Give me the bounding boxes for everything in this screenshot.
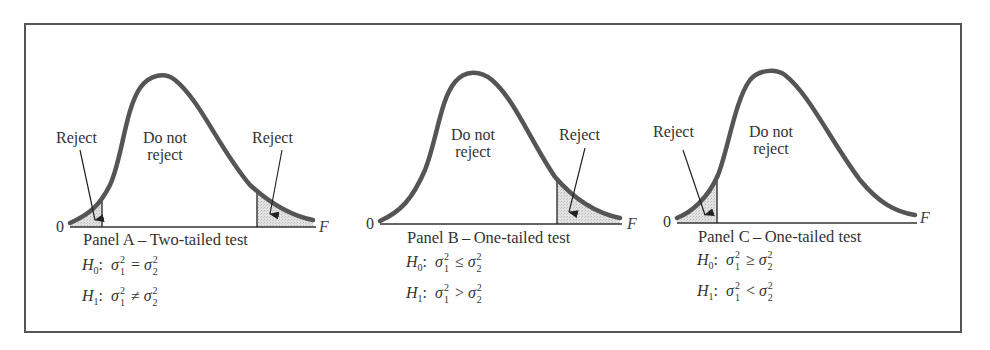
h0-symbol: H <box>697 251 709 268</box>
panel-b-f-label: F <box>627 215 637 233</box>
relation: = <box>131 256 140 273</box>
sup: 2 <box>444 282 449 293</box>
sup: 2 <box>444 251 449 262</box>
sigma-1: σ <box>726 251 734 268</box>
h1-subscript: 1 <box>418 293 423 304</box>
panel-a-h0: H0: σ21 = σ22 <box>82 256 160 276</box>
sigma-1: σ <box>435 284 443 301</box>
h0-symbol: H <box>82 256 94 273</box>
panel-a-do-not-reject-label: Do not reject <box>143 129 187 163</box>
panel-a-f-label: F <box>319 218 329 236</box>
panel-c-h1: H1: σ21 < σ22 <box>697 282 775 302</box>
sup: 2 <box>768 280 773 291</box>
sub: 2 <box>477 294 482 305</box>
sub: 1 <box>120 297 125 308</box>
panel-b-reject-right-label: Reject <box>559 126 600 143</box>
relation: > <box>455 284 464 301</box>
panel-a-reject-left-label: Reject <box>56 129 97 146</box>
panel-b-do-not-reject-label: Do not reject <box>451 126 495 160</box>
panel-b-zero-label: 0 <box>366 215 374 233</box>
panel-b-do-not-reject-line2: reject <box>451 143 495 160</box>
relation: ≥ <box>746 251 755 268</box>
h0-subscript: 0 <box>94 265 99 276</box>
panel-b-chart <box>380 73 622 224</box>
h0-subscript: 0 <box>418 262 423 273</box>
relation: < <box>746 282 755 299</box>
sub: 1 <box>735 292 740 303</box>
panel-a-do-not-reject-line2: reject <box>143 146 187 163</box>
sup: 2 <box>120 285 125 296</box>
sub: 1 <box>120 266 125 277</box>
sigma-1: σ <box>726 282 734 299</box>
sub: 2 <box>477 263 482 274</box>
panel-c-do-not-reject-line1: Do not <box>749 123 793 140</box>
h1-subscript: 1 <box>709 291 714 302</box>
h1-symbol: H <box>697 282 709 299</box>
sup: 2 <box>768 249 773 260</box>
panel-c-chart <box>677 71 917 223</box>
sub: 2 <box>768 292 773 303</box>
h0-subscript: 0 <box>709 260 714 271</box>
sup: 2 <box>477 282 482 293</box>
h1-symbol: H <box>82 287 94 304</box>
panel-b-h0: H0: σ21 ≤ σ22 <box>406 253 484 273</box>
sigma-2: σ <box>759 282 767 299</box>
sub: 1 <box>444 263 449 274</box>
sup: 2 <box>735 249 740 260</box>
sigma-1: σ <box>111 256 119 273</box>
panel-a-h1: H1: σ21 ≠ σ22 <box>82 287 160 307</box>
panel-c-zero-label: 0 <box>663 213 671 231</box>
sup: 2 <box>735 280 740 291</box>
sup: 2 <box>120 254 125 265</box>
sup: 2 <box>153 254 158 265</box>
panel-a-caption: Panel A – Two-tailed test <box>83 230 248 250</box>
sub: 1 <box>735 261 740 272</box>
panel-a-curve <box>70 75 313 223</box>
sigma-2: σ <box>144 287 152 304</box>
panel-a-reject-right-label: Reject <box>252 129 293 146</box>
relation: ≤ <box>455 253 464 270</box>
sigma-2: σ <box>144 256 152 273</box>
panel-b-curve <box>380 73 620 221</box>
h0-symbol: H <box>406 253 418 270</box>
h1-symbol: H <box>406 284 418 301</box>
panel-c-do-not-reject-line2: reject <box>749 140 793 157</box>
panel-c-h0: H0: σ21 ≥ σ22 <box>697 251 775 271</box>
sigma-2: σ <box>468 253 476 270</box>
sigma-2: σ <box>759 251 767 268</box>
sup: 2 <box>477 251 482 262</box>
h1-subscript: 1 <box>94 296 99 307</box>
panel-b-h1: H1: σ21 > σ22 <box>406 284 484 304</box>
sigma-1: σ <box>435 253 443 270</box>
sub: 2 <box>153 266 158 277</box>
panel-c-caption: Panel C – One-tailed test <box>698 227 861 247</box>
panel-a-arrow-left <box>80 150 95 220</box>
sup: 2 <box>153 285 158 296</box>
sub: 2 <box>153 297 158 308</box>
panel-a-zero-label: 0 <box>56 218 64 236</box>
relation: ≠ <box>131 287 140 304</box>
panel-b-do-not-reject-line1: Do not <box>451 126 495 143</box>
sigma-1: σ <box>111 287 119 304</box>
sigma-2: σ <box>468 284 476 301</box>
panel-c-f-label: F <box>920 209 930 227</box>
sub: 2 <box>768 261 773 272</box>
panel-a-chart <box>70 75 316 227</box>
panel-b-caption: Panel B – One-tailed test <box>407 228 570 248</box>
panel-c-do-not-reject-label: Do not reject <box>749 123 793 157</box>
panel-a-do-not-reject-line1: Do not <box>143 129 187 146</box>
sub: 1 <box>444 294 449 305</box>
panel-c-reject-left-label: Reject <box>653 123 694 140</box>
